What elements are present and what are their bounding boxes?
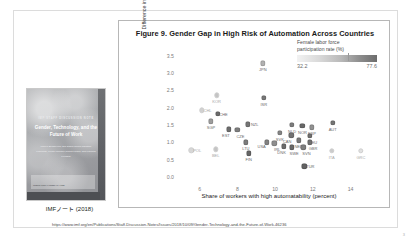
scatter-point[interactable] xyxy=(281,144,286,149)
scatter-point[interactable] xyxy=(261,95,266,100)
y-axis-label: Difference in automatability (female vs.… xyxy=(141,0,151,49)
scatter-point[interactable] xyxy=(213,146,218,151)
colorbar-title-line: Female labor force xyxy=(297,39,385,46)
scatter-point-label: NOR xyxy=(298,130,307,135)
cover-footer-line: INTERNATIONAL MONETARY FUND xyxy=(33,184,65,186)
scatter-point[interactable] xyxy=(300,123,305,128)
scatter-point[interactable] xyxy=(288,133,293,138)
x-axis-tick: 8 xyxy=(236,186,239,192)
cover-author-line: Mariya Brussevich, Era Dabla-Norris, xyxy=(41,145,82,148)
cover-eyebrow: IMF STAFF DISCUSSION NOTE xyxy=(35,117,97,120)
y-axis-label-line2: male) xyxy=(148,0,155,49)
scatter-point-label: KOR xyxy=(212,99,221,104)
x-axis-tick: 10 xyxy=(272,186,278,192)
cover-caption: IMFノート (2018) xyxy=(26,204,113,213)
scatter-point[interactable] xyxy=(260,61,265,66)
x-axis-label: Share of workers with high automatabilit… xyxy=(159,193,379,199)
scatter-point-label: TUR xyxy=(306,164,314,169)
scatter-point[interactable] xyxy=(246,151,251,156)
y-axis-tick: 1.5 xyxy=(167,122,174,128)
scatter-point[interactable] xyxy=(289,122,294,127)
scatter-point-label: CZE xyxy=(236,134,244,139)
scatter-point[interactable] xyxy=(277,130,282,135)
y-axis-tick: 3.0 xyxy=(167,70,174,76)
x-axis-tick: 12 xyxy=(310,186,316,192)
colorbar-gradient xyxy=(297,55,377,62)
y-axis-tick: 2.5 xyxy=(167,87,174,93)
scatter-point[interactable] xyxy=(208,119,213,124)
scatter-point-label: AUT xyxy=(329,127,337,132)
scatter-point[interactable] xyxy=(235,127,240,132)
colorbar-max-label: 77.6 xyxy=(367,63,378,69)
scatter-point-label: CHE xyxy=(219,112,227,117)
cover-authors: Mariya Brussevich, Era Dabla-Norris,Chri… xyxy=(35,144,97,159)
scatter-point-label: NZL xyxy=(251,122,259,127)
cover-spine xyxy=(98,89,105,201)
y-axis-tick: 3.5 xyxy=(167,53,174,59)
scatter-point-label: ISR xyxy=(260,102,267,107)
scatter-point[interactable] xyxy=(226,127,231,132)
cover-author-line: Salma Khalid, and Kalpana Kochhar xyxy=(61,150,95,158)
cover-bottom-band xyxy=(27,192,100,200)
scatter-point[interactable] xyxy=(309,125,314,130)
scatter-point[interactable] xyxy=(271,141,276,146)
y-axis-label-line1: Difference in automatability (female vs. xyxy=(141,0,148,49)
scatter-point-label: ITA xyxy=(329,155,335,160)
publication-cover: IMF STAFF DISCUSSION NOTE Gender, Techno… xyxy=(26,88,113,201)
cover-footer-note: INTERNATIONAL MONETARY FUND xyxy=(33,184,91,187)
scatter-point-label: GRC xyxy=(357,155,366,160)
y-axis-tick: 1.0 xyxy=(167,139,174,145)
scatter-point[interactable] xyxy=(358,148,363,153)
y-axis-tick: 2.0 xyxy=(167,105,174,111)
scatter-point-label: SVN xyxy=(302,151,310,156)
cover-artwork: IMF STAFF DISCUSSION NOTE Gender, Techno… xyxy=(26,88,106,201)
x-axis-tick: 14 xyxy=(348,186,354,192)
page-number: 3 xyxy=(403,232,405,237)
scatter-point-label: JPN xyxy=(259,67,267,72)
scatter-point[interactable] xyxy=(296,138,301,143)
colorbar-title-line: participation rate (%) xyxy=(297,46,385,53)
scatter-point-label: DNK xyxy=(277,150,285,155)
chart-title: Figure 9. Gender Gap in High Risk of Aut… xyxy=(125,29,385,38)
scatter-point-label: USA xyxy=(257,144,265,149)
scatter-point[interactable] xyxy=(214,93,219,98)
colorbar-min-label: 32.2 xyxy=(297,63,308,69)
colorbar-values: 32.2 77.6 xyxy=(297,63,377,71)
chart-panel: Figure 9. Gender Gap in High Risk of Aut… xyxy=(118,20,390,208)
scatter-point[interactable] xyxy=(307,133,312,138)
scatter-point[interactable] xyxy=(243,139,248,144)
source-url[interactable]: https://www.imf.org/en/Publications/Staf… xyxy=(52,222,286,227)
scatter-point[interactable] xyxy=(245,121,250,126)
colorbar-tick xyxy=(348,53,349,61)
scatter-point-label: CHL xyxy=(204,108,212,113)
x-axis-tick: 6 xyxy=(198,186,201,192)
scatter-point-label: EST xyxy=(222,133,230,138)
scatter-point-label: SGP xyxy=(207,125,215,130)
scatter-point-label: SWE xyxy=(290,151,299,156)
y-axis-tick: 0.0 xyxy=(167,174,174,180)
slide: IMF STAFF DISCUSSION NOTE Gender, Techno… xyxy=(0,0,411,241)
scatter-point[interactable] xyxy=(301,145,306,150)
y-axis-tick: 0.5 xyxy=(167,157,174,163)
scatter-point-label: FIN xyxy=(245,157,251,162)
colorbar-legend: Female labor forceparticipation rate (%)… xyxy=(297,39,385,71)
scatter-point-label: POL xyxy=(193,148,201,153)
scatter-point[interactable] xyxy=(330,120,335,125)
scatter-point-label: BEL xyxy=(212,153,220,158)
cover-title: Gender, Technology, and the Future of Wo… xyxy=(33,125,99,138)
scatter-point[interactable] xyxy=(329,148,334,153)
colorbar-title: Female labor forceparticipation rate (%) xyxy=(297,39,385,53)
